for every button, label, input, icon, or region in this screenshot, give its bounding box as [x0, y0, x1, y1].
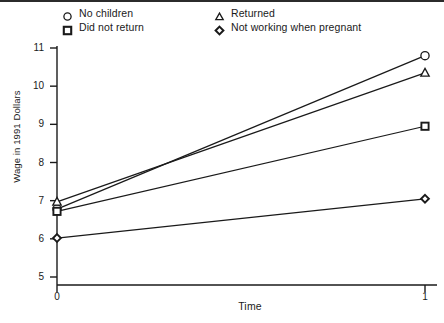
series-line [53, 123, 428, 215]
x-tick-marks [57, 285, 425, 292]
chart-figure: No children Did not return Returned [0, 0, 444, 323]
series-line [53, 195, 429, 242]
series-line [53, 52, 429, 214]
series-line [53, 68, 429, 205]
series-layer [53, 52, 429, 242]
chart-canvas [0, 0, 444, 323]
axis-lines [57, 46, 437, 285]
y-tick-marks [50, 48, 57, 277]
